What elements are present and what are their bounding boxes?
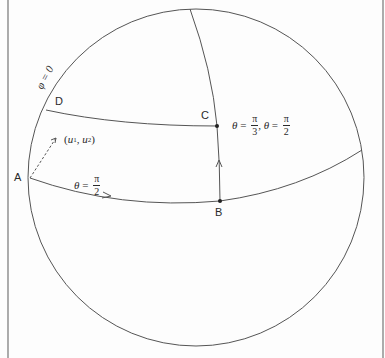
point-b-dot	[218, 199, 222, 203]
figure-canvas: A B C D φ = 0 ( u1 , u2 ) θ = π 2 θ = π …	[0, 0, 385, 358]
tangent-vector	[30, 138, 56, 178]
pi-over-3-fraction: π 3	[251, 114, 258, 137]
fraction-denominator-1: 3	[252, 126, 257, 137]
point-b-label: B	[215, 207, 222, 218]
equals-sign: =	[79, 180, 91, 191]
point-d-label: D	[55, 96, 63, 107]
point-c-label: C	[201, 110, 209, 121]
equator-theta-label: θ = π 2	[74, 174, 100, 197]
point-a-label: A	[14, 172, 21, 183]
latitude-curve-dc	[46, 110, 217, 126]
point-c-coords-label: θ = π 3 , θ = π 2	[232, 114, 290, 137]
equals-sign-2: =	[269, 120, 281, 131]
tangent-coords-label: ( u1 , u2 )	[64, 134, 95, 145]
equals-sign-1: =	[237, 120, 249, 131]
fraction-numerator: π	[93, 174, 100, 186]
sphere-drawing	[0, 0, 385, 358]
fraction-denominator-2: 2	[284, 126, 289, 137]
pi-over-2-fraction-c: π 2	[283, 114, 290, 137]
fraction-denominator: 2	[94, 186, 99, 197]
u2-symbol: u	[82, 134, 88, 145]
pi-over-2-fraction: π 2	[93, 174, 100, 197]
fraction-numerator-2: π	[283, 114, 290, 126]
meridian-curve	[190, 9, 220, 201]
paren-close: )	[91, 134, 95, 145]
point-c-dot	[215, 124, 219, 128]
fraction-numerator-1: π	[251, 114, 258, 126]
